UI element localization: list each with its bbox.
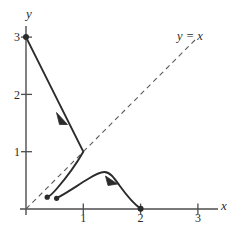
x-tick-label-1: 1 (73, 212, 93, 224)
endpoint-dot-0-3 (23, 34, 29, 40)
x-axis-title: x (221, 199, 227, 212)
endpoint-dot-upper-lower-end (45, 195, 50, 200)
endpoint-dot-lower-start (54, 196, 59, 201)
identity-line-label: y = x (177, 30, 203, 43)
cobweb-lower-branch (57, 172, 141, 209)
math-plot-figure: y x y = x 1 2 3 1 2 3 (0, 0, 237, 236)
y-tick-label-1: 1 (6, 146, 20, 158)
y-tick-label-3: 3 (6, 31, 20, 43)
y-tick-label-2: 2 (6, 89, 20, 101)
x-tick-label-3: 3 (188, 212, 208, 224)
x-tick-label-2: 2 (131, 212, 151, 224)
cobweb-upper-branch (26, 37, 83, 197)
y-axis-title: y (26, 7, 32, 20)
